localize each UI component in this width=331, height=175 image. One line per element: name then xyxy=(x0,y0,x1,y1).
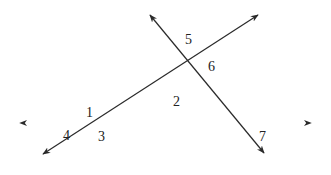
angle-label-5: 5 xyxy=(185,32,192,47)
angle-label-3: 3 xyxy=(98,129,105,144)
transversal-line-b xyxy=(150,15,264,153)
geometry-diagram: 1 2 3 4 5 6 7 xyxy=(0,0,331,175)
angle-label-1: 1 xyxy=(86,105,93,120)
angle-label-6: 6 xyxy=(208,59,215,74)
angle-label-7: 7 xyxy=(259,129,266,144)
transversal-line-a xyxy=(43,15,258,154)
angle-label-4: 4 xyxy=(63,128,70,143)
angle-label-2: 2 xyxy=(173,94,180,109)
